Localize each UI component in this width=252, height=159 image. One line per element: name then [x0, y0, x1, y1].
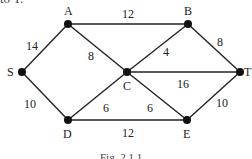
- figure-caption: Fig. 2.1.1: [100, 151, 142, 159]
- node-E: [183, 116, 191, 124]
- node-B: [184, 20, 192, 28]
- weight-S-D: 10: [24, 97, 36, 111]
- weight-B-T: 8: [217, 35, 223, 49]
- node-label-S: S: [7, 65, 14, 79]
- node-label-D: D: [63, 127, 72, 141]
- weight-A-C: 8: [88, 49, 94, 63]
- node-S: [18, 68, 26, 76]
- weighted-graph: A B S C T D E 14 12 8 4 8 16 10 6 6 12 1…: [0, 0, 252, 159]
- weight-D-C: 6: [103, 101, 109, 115]
- node-label-A: A: [64, 4, 73, 18]
- weight-B-C: 4: [163, 45, 169, 59]
- node-T: [236, 68, 244, 76]
- edge-A-C: [68, 24, 127, 72]
- weight-S-A: 14: [26, 39, 38, 53]
- node-D: [64, 116, 72, 124]
- node-C: [123, 68, 131, 76]
- edge-S-D: [22, 72, 68, 120]
- node-A: [64, 20, 72, 28]
- node-label-E: E: [183, 127, 190, 141]
- node-label-T: T: [244, 65, 252, 79]
- edge-B-T: [188, 24, 240, 72]
- edge-E-T: [187, 72, 240, 120]
- weight-A-B: 12: [122, 7, 134, 21]
- edge-D-C: [68, 72, 127, 120]
- weight-D-E: 12: [122, 126, 134, 140]
- node-label-B: B: [184, 4, 192, 18]
- weight-C-E: 6: [147, 101, 153, 115]
- weight-C-T: 16: [177, 77, 189, 91]
- edge-B-C: [127, 24, 188, 72]
- weight-E-T: 10: [216, 96, 228, 110]
- node-label-C: C: [123, 79, 131, 93]
